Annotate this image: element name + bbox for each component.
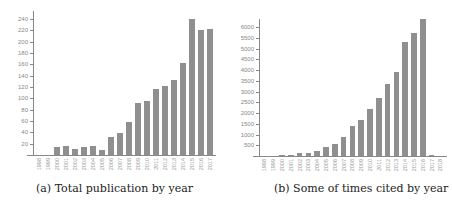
x-tick-label: 2012 (385, 159, 391, 171)
x-tick-label: 2011 (153, 158, 159, 170)
x-tick-label: 2011 (376, 159, 382, 171)
x-tick-label: 2007 (341, 159, 347, 171)
bar (367, 109, 373, 156)
y-tick-label: 4500 (230, 56, 254, 62)
bar (90, 146, 96, 155)
bar (81, 147, 87, 156)
bar (288, 155, 294, 156)
bar (279, 155, 285, 156)
y-tick-label: 2500 (230, 99, 254, 105)
y-tick-label: 5500 (230, 35, 254, 41)
citations-bar-chart: 5001000150020002500300035004000450050005… (226, 0, 452, 180)
x-tick-label: 2013 (171, 158, 177, 170)
x-tick-label: 2003 (305, 159, 311, 171)
bar (135, 103, 141, 155)
bar (171, 80, 177, 155)
x-axis (253, 156, 447, 157)
y-axis (259, 19, 260, 156)
x-axis (27, 155, 216, 156)
bar (153, 89, 159, 155)
bar (402, 42, 408, 156)
bar (108, 137, 114, 155)
bar (54, 147, 60, 155)
x-tick-label: 2005 (323, 159, 329, 171)
bar (63, 146, 69, 155)
x-tick-label: 2008 (349, 159, 355, 171)
panel-publications: 2040608010012014016018020022024019981999… (0, 0, 226, 206)
y-tick-label: 20 (4, 141, 28, 147)
panel-citations: 5001000150020002500300035004000450050005… (226, 0, 452, 206)
x-tick-label: 2016 (198, 158, 204, 170)
x-tick-label: 2009 (358, 159, 364, 171)
x-tick-label: 2014 (402, 159, 408, 171)
y-tick-label: 40 (4, 129, 28, 135)
x-tick-label: 2006 (108, 158, 114, 170)
x-tick-label: 2017 (207, 158, 213, 170)
bar (99, 150, 105, 155)
x-tick-label: 2013 (393, 159, 399, 171)
y-tick-label: 140 (4, 73, 28, 79)
y-tick-label: 80 (4, 107, 28, 113)
bar (117, 133, 123, 155)
x-tick-label: 2010 (367, 159, 373, 171)
y-tick-label: 2000 (230, 110, 254, 116)
y-tick-label: 240 (4, 16, 28, 22)
y-tick-label: 60 (4, 118, 28, 124)
y-tick-label: 3500 (230, 78, 254, 84)
x-tick-label: 1998 (261, 159, 267, 171)
y-tick-label: 1500 (230, 121, 254, 127)
bar (358, 120, 364, 156)
x-tick-label: 2006 (332, 159, 338, 171)
x-tick-label: 1999 (45, 158, 51, 170)
bar (332, 144, 338, 156)
y-tick-label: 3000 (230, 89, 254, 95)
y-tick-label: 120 (4, 84, 28, 90)
bar (376, 98, 382, 156)
x-tick-label: 2001 (288, 159, 294, 171)
bar (162, 86, 168, 155)
bar (72, 149, 78, 155)
bar (411, 33, 417, 156)
bar (385, 84, 391, 156)
y-tick-label: 100 (4, 95, 28, 101)
x-tick-label: 2007 (117, 158, 123, 170)
y-tick-label: 220 (4, 27, 28, 33)
x-tick-label: 2004 (314, 159, 320, 171)
x-tick-label: 2015 (411, 159, 417, 171)
bar (144, 101, 150, 155)
x-tick-label: 2017 (429, 159, 435, 171)
y-tick-label: 160 (4, 61, 28, 67)
y-tick-label: 5000 (230, 46, 254, 52)
bar (207, 29, 213, 155)
bar (323, 147, 329, 156)
x-tick-label: 2005 (99, 158, 105, 170)
y-tick-label: 1000 (230, 132, 254, 138)
bar (297, 153, 303, 156)
bar (341, 137, 347, 156)
x-tick-label: 2004 (90, 158, 96, 170)
caption-a: (a) Total publication by year (36, 182, 193, 195)
x-tick-label: 1998 (36, 158, 42, 170)
y-tick-label: 4000 (230, 67, 254, 73)
x-tick-label: 2000 (279, 159, 285, 171)
x-tick-label: 2015 (189, 158, 195, 170)
x-tick-label: 2018 (437, 159, 443, 171)
x-tick-label: 2000 (54, 158, 60, 170)
x-tick-label: 2012 (162, 158, 168, 170)
x-tick-label: 2016 (420, 159, 426, 171)
bar (126, 122, 132, 155)
y-tick-label: 200 (4, 39, 28, 45)
x-tick-label: 2014 (180, 158, 186, 170)
publications-bar-chart: 2040608010012014016018020022024019981999… (0, 0, 226, 180)
x-tick-label: 2008 (126, 158, 132, 170)
bar (350, 126, 356, 156)
y-tick-label: 6000 (230, 24, 254, 30)
bar (198, 30, 204, 155)
caption-b: (b) Some of times cited by year (274, 182, 448, 195)
bar (180, 63, 186, 155)
x-tick-label: 2009 (135, 158, 141, 170)
bar (189, 19, 195, 155)
x-tick-label: 2002 (72, 158, 78, 170)
x-tick-label: 1999 (270, 159, 276, 171)
y-tick-label: 500 (230, 142, 254, 148)
